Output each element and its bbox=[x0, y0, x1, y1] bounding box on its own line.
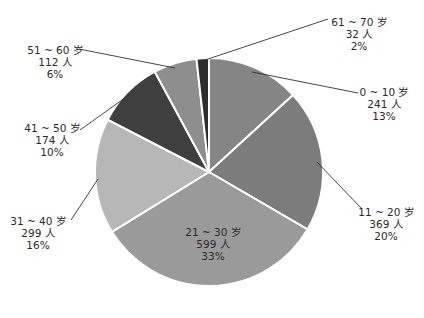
slice-percent-label: 2% bbox=[331, 40, 387, 52]
slice-count-label: 299 人 bbox=[10, 227, 66, 239]
slice-percent-label: 13% bbox=[360, 110, 409, 122]
slice-count-label: 599 人 bbox=[185, 238, 241, 250]
slice-range-label: 21 ~ 30 岁 bbox=[185, 226, 241, 238]
slice-range-label: 61 ~ 70 岁 bbox=[331, 16, 387, 28]
slice-label: 0 ~ 10 岁 241 人 13% bbox=[360, 86, 409, 122]
slice-label: 11 ~ 20 岁 369 人 20% bbox=[358, 206, 414, 242]
leader-line bbox=[79, 49, 175, 68]
slice-label: 31 ~ 40 岁 299 人 16% bbox=[10, 215, 66, 251]
leader-line bbox=[205, 19, 328, 60]
slice-range-label: 11 ~ 20 岁 bbox=[358, 206, 414, 218]
slice-percent-label: 20% bbox=[358, 230, 414, 242]
slice-percent-label: 33% bbox=[185, 250, 241, 262]
slice-count-label: 241 人 bbox=[360, 98, 409, 110]
slice-percent-label: 10% bbox=[24, 146, 80, 158]
slice-range-label: 0 ~ 10 岁 bbox=[360, 86, 409, 98]
slice-label: 21 ~ 30 岁 599 人 33% bbox=[185, 226, 241, 262]
slice-percent-label: 16% bbox=[10, 239, 66, 251]
leader-line bbox=[71, 179, 98, 220]
slice-label: 51 ~ 60 岁 112 人 6% bbox=[27, 44, 83, 80]
slice-count-label: 112 人 bbox=[27, 56, 83, 68]
slice-range-label: 31 ~ 40 岁 bbox=[10, 215, 66, 227]
slice-count-label: 174 人 bbox=[24, 134, 80, 146]
slice-range-label: 51 ~ 60 岁 bbox=[27, 44, 83, 56]
slice-percent-label: 6% bbox=[27, 68, 83, 80]
leader-line bbox=[317, 162, 361, 208]
slice-label: 61 ~ 70 岁 32 人 2% bbox=[331, 16, 387, 52]
slice-count-label: 32 人 bbox=[331, 28, 387, 40]
slice-label: 41 ~ 50 岁 174 人 10% bbox=[24, 122, 80, 158]
slice-count-label: 369 人 bbox=[358, 218, 414, 230]
slice-range-label: 41 ~ 50 岁 bbox=[24, 122, 80, 134]
